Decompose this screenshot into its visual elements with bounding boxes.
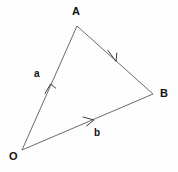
vector-label-a: a <box>34 69 40 79</box>
vertex-label-B: B <box>160 88 168 99</box>
segment-OA-line <box>22 26 77 150</box>
vertex-label-O: O <box>9 151 18 162</box>
vector-label-b: b <box>94 128 100 138</box>
vertex-label-A: A <box>72 6 80 17</box>
vector-diagram-canvas <box>0 0 178 172</box>
segment-OB-line <box>22 94 153 150</box>
vector-triangle-figure: A B O a b <box>0 0 178 172</box>
